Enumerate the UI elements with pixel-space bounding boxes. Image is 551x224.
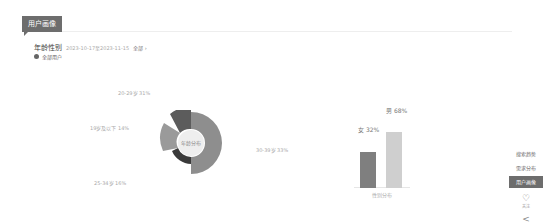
- chart-heading: 年龄性别 2023-10-17至2023-11-15 全部 ›: [34, 42, 147, 52]
- follow-button[interactable]: ♡ 关注: [509, 193, 543, 209]
- section-tag: 用户画像: [22, 16, 62, 32]
- age-donut-chart[interactable]: 年龄分布: [158, 110, 224, 176]
- share-button[interactable]: < 分享本页: [509, 214, 543, 224]
- pie-label: 19岁及以下 14%: [90, 124, 129, 131]
- section-header-line: [22, 16, 512, 32]
- gender-bar-chart: 女 32% 男 68% 性别分布: [350, 120, 430, 200]
- nav-item-user-profile[interactable]: 用户画像: [509, 176, 543, 188]
- pie-label: 20-29岁 31%: [118, 89, 150, 96]
- pie-label: 30-39岁 33%: [256, 146, 288, 153]
- side-navigation: 搜索趋势 需求分布 用户画像 ♡ 关注 < 分享本页 ︿ 返回顶部: [509, 148, 543, 224]
- legend-label: 全部用户: [42, 53, 62, 60]
- nav-item-search-trend[interactable]: 搜索趋势: [509, 148, 543, 160]
- heart-icon: ♡: [522, 193, 530, 203]
- bar-label-female: 女 32%: [358, 125, 379, 134]
- page-title: 年龄性别: [34, 42, 62, 52]
- bar-label-male: 男 68%: [386, 106, 407, 115]
- bar-male[interactable]: [386, 132, 402, 188]
- donut-center-label: 年龄分布: [181, 140, 201, 147]
- range-selector[interactable]: 全部 ›: [133, 44, 147, 51]
- pie-label: 25-34岁 16%: [94, 179, 126, 186]
- share-icon: <: [522, 214, 530, 224]
- follow-label: 关注: [522, 203, 530, 209]
- legend[interactable]: 全部用户: [34, 53, 62, 60]
- legend-dot-icon: [34, 54, 39, 59]
- nav-item-demand[interactable]: 需求分布: [509, 162, 543, 174]
- bar-female[interactable]: [360, 152, 376, 188]
- x-axis-label: 性别分布: [372, 191, 392, 198]
- date-range: 2023-10-17至2023-11-15: [66, 44, 129, 51]
